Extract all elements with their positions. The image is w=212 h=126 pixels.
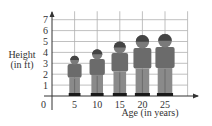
x-axis-label: Age (in years) bbox=[100, 107, 200, 118]
y-tick-label: 4 bbox=[43, 47, 48, 58]
height-by-age-chart: 12345670510152025 Height (in ft) Age (in… bbox=[0, 0, 212, 126]
person-hair bbox=[70, 56, 79, 60]
person-shoes bbox=[135, 93, 150, 96]
person-hair bbox=[136, 35, 149, 42]
person-hair bbox=[158, 34, 172, 41]
y-tick-label: 3 bbox=[43, 58, 48, 69]
y-tick-label: 1 bbox=[43, 80, 48, 91]
origin-label: 0 bbox=[41, 99, 46, 110]
y-tick-label: 5 bbox=[43, 36, 48, 47]
y-axis-arrow-icon bbox=[50, 11, 55, 17]
y-axis-label: Height (in ft) bbox=[4, 50, 40, 70]
person-shoes bbox=[91, 93, 104, 96]
y-tick-label: 6 bbox=[43, 25, 48, 36]
x-tick-label: 5 bbox=[72, 99, 77, 110]
person-torso bbox=[112, 53, 129, 71]
person-shoes bbox=[157, 93, 173, 96]
person-hair bbox=[114, 42, 126, 48]
x-axis-arrow-icon bbox=[193, 94, 199, 99]
y-tick-label: 2 bbox=[43, 69, 48, 80]
person-shoes bbox=[113, 93, 127, 96]
person-torso bbox=[133, 48, 151, 69]
person-torso bbox=[90, 59, 105, 75]
person-torso bbox=[68, 64, 82, 78]
person-torso bbox=[155, 47, 174, 68]
person-shoes bbox=[69, 93, 81, 96]
y-tick-label: 7 bbox=[43, 14, 48, 25]
y-axis-label-line2: (in ft) bbox=[4, 60, 40, 70]
person-hair bbox=[92, 49, 102, 54]
